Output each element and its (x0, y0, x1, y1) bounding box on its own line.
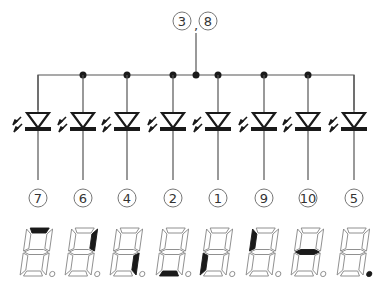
svg-text:,: , (194, 18, 198, 33)
light-emission-icon (193, 117, 202, 132)
led-diode-a (13, 75, 51, 180)
decimal-point (366, 271, 372, 276)
light-emission-icon (283, 117, 292, 132)
digit-4-segment-d (156, 228, 197, 277)
seven-segment-common-anode-diagram: 3 , 8 764219105 (0, 0, 379, 298)
svg-text:9: 9 (260, 191, 268, 206)
pin-label-5: 5 (345, 189, 363, 207)
pin-label-6: 6 (74, 189, 92, 207)
digit-7-segment-g (291, 228, 332, 277)
svg-text:2: 2 (169, 191, 177, 206)
digit-8-segment-dp (337, 228, 378, 277)
led-diode-e (193, 75, 231, 180)
svg-text:4: 4 (123, 191, 131, 206)
pin-label-2: 2 (164, 189, 182, 207)
svg-text:7: 7 (34, 191, 42, 206)
pin-label-10: 10 (299, 189, 317, 207)
svg-text:6: 6 (79, 191, 87, 206)
light-emission-icon (329, 117, 338, 132)
decimal-point (185, 271, 191, 276)
svg-text:10: 10 (300, 191, 317, 206)
pin-label-4: 4 (118, 189, 136, 207)
digit-2-segment-b (65, 228, 106, 277)
digit-1-segment-a (20, 228, 61, 277)
pin-label-1: 1 (209, 189, 227, 207)
light-emission-icon (102, 117, 111, 132)
pin-label-9: 9 (255, 189, 273, 207)
light-emission-icon (239, 117, 248, 132)
svg-text:5: 5 (350, 191, 358, 206)
led-diode-dp (329, 75, 367, 180)
common-pin-label: 3 , 8 (173, 12, 217, 33)
led-diode-d (148, 75, 186, 180)
svg-text:3: 3 (178, 14, 186, 29)
light-emission-icon (148, 117, 157, 132)
decimal-point (275, 271, 281, 276)
led-diode-g (283, 75, 321, 180)
led-diode-b (58, 75, 96, 180)
digit-5-segment-e (200, 228, 241, 277)
decimal-point (94, 271, 100, 276)
decimal-point (320, 271, 326, 276)
decimal-point (49, 271, 55, 276)
svg-text:1: 1 (214, 191, 222, 206)
led-diode-c (102, 75, 140, 180)
light-emission-icon (58, 117, 67, 132)
digit-6-segment-f (246, 228, 287, 277)
svg-text:8: 8 (204, 14, 212, 29)
decimal-point (229, 271, 235, 276)
led-diode-f (239, 75, 277, 180)
digit-3-segment-c (110, 228, 151, 277)
decimal-point (139, 271, 145, 276)
light-emission-icon (13, 117, 22, 132)
pin-label-7: 7 (29, 189, 47, 207)
